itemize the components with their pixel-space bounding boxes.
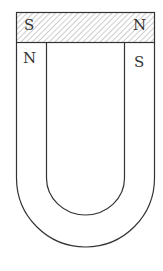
pole-left-label: N	[23, 51, 36, 66]
keeper-right-label: N	[133, 18, 146, 33]
magnet-outer-outline	[17, 43, 155, 248]
magnet-inner-outline	[47, 43, 125, 216]
keeper-left-label: S	[24, 18, 34, 33]
magnet-diagram	[0, 0, 163, 271]
pole-right-label: S	[134, 55, 144, 70]
